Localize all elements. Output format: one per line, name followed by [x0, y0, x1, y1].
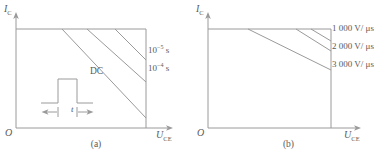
- curve-label-pulse-1e-5: 10−5 s: [148, 44, 169, 55]
- y-axis-label: IC: [4, 4, 12, 17]
- soa-curve-1000v: [311, 29, 331, 41]
- pulse-width-label: t: [71, 105, 74, 114]
- figure-root: IC UCE O 10−5 s 10−4 s DC t (a): [0, 0, 385, 161]
- soa-curve-3000v: [248, 29, 331, 70]
- origin-label: O: [5, 128, 12, 138]
- curve-label-3000v: 3 000 V/ μs: [332, 60, 374, 69]
- curve-label-1000v: 1 000 V/ μs: [332, 24, 374, 33]
- panel-b-caption: (b): [192, 140, 385, 150]
- panel-a-caption: (a): [0, 140, 192, 150]
- origin-label: O: [197, 128, 204, 138]
- curve-label-2000v: 2 000 V/ μs: [332, 42, 374, 51]
- soa-curve-1e-5: [115, 29, 146, 60]
- soa-curve-2000v: [296, 29, 331, 51]
- y-axis-label: IC: [196, 4, 204, 17]
- soa-curve-dc: [62, 29, 146, 118]
- panel-a: IC UCE O 10−5 s 10−4 s DC t (a): [0, 0, 192, 161]
- pulse-waveform: [41, 79, 93, 103]
- curve-label-pulse-1e-4: 10−4 s: [148, 62, 169, 73]
- curve-label-dc: DC: [90, 67, 103, 77]
- panel-b: IC UCE O 1 000 V/ μs 2 000 V/ μs 3 000 V…: [192, 0, 385, 161]
